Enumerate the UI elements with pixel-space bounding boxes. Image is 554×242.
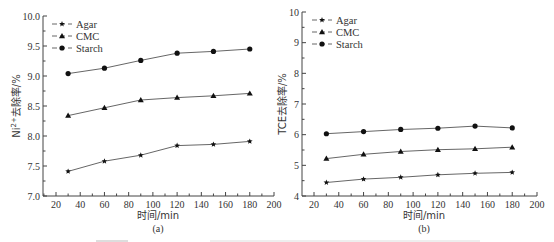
star-marker [361,176,367,181]
circle-marker [361,129,366,134]
x-tick-label: 120 [430,199,445,210]
circle-marker [324,131,329,136]
star-marker [435,172,441,177]
x-tick-label: 60 [359,199,369,210]
x-tick-label: 200 [530,199,545,210]
figure: 7.07.58.08.59.09.510.0204060801001201401… [0,0,554,242]
x-tick-label: 120 [170,199,185,210]
x-tick-label: 20 [309,199,319,210]
star-marker [472,170,478,175]
legend-item-cmc: CMC [312,27,359,38]
y-tick-label: 9.0 [28,71,41,82]
x-axis-label-b: 时间/min [403,209,445,221]
x-tick-label: 40 [75,199,85,210]
x-tick-label: 140 [194,199,209,210]
series-agar [324,169,516,185]
star-marker [138,152,144,157]
star-marker [211,141,217,146]
star-marker [324,180,330,185]
y-tick-label: 8.0 [28,131,41,142]
y-tick-label: 7 [294,99,299,110]
series-starch [324,123,515,136]
chart-panel-a: 7.07.58.08.59.09.510.0204060801001201401… [23,11,282,211]
legend-label: Starch [336,39,364,50]
x-tick-label: 20 [51,199,61,210]
star-marker [398,174,404,179]
x-tick-label: 100 [145,199,160,210]
circle-marker [66,71,71,76]
y-tick-label: 9 [294,37,299,48]
y-tick-label: 6 [294,129,299,140]
y-tick-label: 4 [294,191,299,202]
legend-star-icon [319,17,325,22]
circle-marker [472,123,477,128]
legend-label: Starch [76,43,104,54]
series-line [68,93,250,115]
panel-label-a: (a) [152,223,163,235]
x-tick-label: 200 [267,199,282,210]
x-tick-label: 100 [406,199,421,210]
star-marker [102,158,108,163]
y-tick-label: 8 [294,68,299,79]
legend-item-cmc: CMC [52,31,99,42]
y-axis-label-a: Ni2+去除率/% [10,74,22,137]
x-tick-label: 140 [455,199,470,210]
x-tick-label: 40 [334,199,344,210]
legend-item-starch: Starch [52,43,104,54]
y-tick-label: 7.5 [28,161,41,172]
legend-item-agar: Agar [52,19,97,30]
y-tick-label: 9.5 [28,41,41,52]
circle-marker [435,126,440,131]
series-line [326,147,512,158]
star-marker [174,143,180,148]
y-axis-label-b: TCE去除率/% [276,73,288,136]
legend-circle-icon [319,41,324,46]
legend-label: CMC [76,31,99,42]
legend-circle-icon [59,45,64,50]
circle-marker [247,46,252,51]
series-agar [65,138,252,173]
x-tick-label: 180 [242,199,257,210]
x-axis-label-a: 时间/min [137,209,179,221]
x-tick-label: 180 [505,199,520,210]
legend-label: Agar [336,15,357,26]
circle-marker [510,125,515,130]
star-marker [247,138,253,143]
legend-star-icon [59,21,65,26]
y-tick-label: 10 [289,7,299,18]
circle-marker [102,66,107,71]
star-marker [509,169,515,174]
legend-item-agar: Agar [312,15,357,26]
legend-label: CMC [336,27,359,38]
x-tick-label: 60 [99,199,109,210]
star-marker [65,168,71,173]
y-tick-label: 10.0 [23,11,41,22]
series-cmc [323,144,515,161]
circle-marker [175,51,180,56]
legend-label: Agar [76,19,97,30]
y-tick-label: 5 [294,160,299,171]
legend-item-starch: Starch [312,39,364,50]
triangle-marker [247,90,253,95]
panel-label-b: (b) [418,223,430,235]
x-tick-label: 80 [383,199,393,210]
legend: AgarCMCStarch [52,19,104,54]
circle-marker [398,127,403,132]
series-line [68,141,250,171]
x-tick-label: 80 [124,199,134,210]
y-tick-label: 8.5 [28,101,41,112]
series-cmc [65,90,253,117]
series-line [326,126,512,134]
y-tick-label: 7.0 [28,191,41,202]
x-tick-label: 160 [218,199,233,210]
circle-marker [138,58,143,63]
series-line [326,172,512,182]
legend: AgarCMCStarch [312,15,364,50]
x-tick-label: 160 [480,199,495,210]
circle-marker [211,49,216,54]
chart-panel-b: 4567891020406080100120140160180200AgarCM… [289,7,545,211]
